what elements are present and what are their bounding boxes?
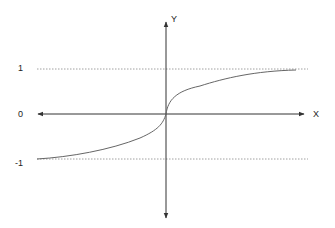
- y-axis-label: Y: [171, 15, 177, 24]
- x-axis-label: X: [313, 110, 319, 119]
- y-tick-positive-one: 1: [18, 64, 23, 73]
- chart-canvas: [0, 0, 335, 228]
- y-tick-zero: 0: [18, 110, 23, 119]
- y-tick-negative-one: -1: [15, 159, 23, 168]
